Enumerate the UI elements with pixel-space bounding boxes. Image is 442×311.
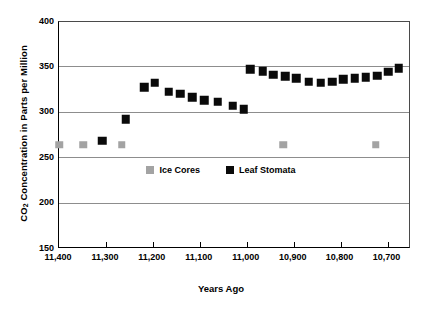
x-tick-label-10700: 10,700 bbox=[373, 252, 401, 262]
data-point-stomata bbox=[339, 75, 348, 84]
data-point-stomata bbox=[121, 115, 130, 124]
legend-label-ice: Ice Cores bbox=[159, 165, 200, 175]
data-point-stomata bbox=[213, 98, 222, 107]
data-point-ice bbox=[118, 141, 126, 149]
x-tick-mark-11200 bbox=[153, 242, 154, 247]
legend-item-ice: Ice Cores bbox=[146, 165, 200, 175]
data-point-stomata bbox=[328, 78, 337, 87]
data-point-stomata bbox=[200, 96, 209, 105]
data-point-stomata bbox=[362, 73, 371, 82]
gridline-200 bbox=[59, 203, 409, 204]
data-point-stomata bbox=[188, 93, 197, 102]
x-tick-label-11100: 11,100 bbox=[185, 252, 212, 262]
data-point-stomata bbox=[350, 74, 359, 83]
x-tick-mark-11100 bbox=[200, 242, 201, 247]
gridline-300 bbox=[59, 112, 409, 113]
y-tick-label-350: 350 bbox=[20, 62, 54, 71]
data-point-stomata bbox=[258, 67, 267, 76]
data-point-stomata bbox=[384, 68, 393, 77]
y-tick-label-400: 400 bbox=[20, 17, 54, 26]
y-tick-label-300: 300 bbox=[20, 107, 54, 116]
data-point-ice bbox=[80, 141, 88, 149]
x-tick-mark-10900 bbox=[294, 242, 295, 247]
legend-label-stomata: Leaf Stomata bbox=[239, 165, 296, 175]
plot-area bbox=[58, 21, 410, 248]
x-tick-mark-10700 bbox=[388, 242, 389, 247]
x-tick-mark-11000 bbox=[247, 242, 248, 247]
y-tick-label-200: 200 bbox=[20, 198, 54, 207]
x-tick-mark-10800 bbox=[341, 242, 342, 247]
data-point-stomata bbox=[246, 65, 255, 74]
x-axis-title: Years Ago bbox=[0, 283, 442, 294]
x-tick-label-11300: 11,300 bbox=[91, 252, 118, 262]
x-tick-label-11400: 11,400 bbox=[44, 252, 71, 262]
data-point-ice bbox=[280, 141, 288, 149]
data-point-stomata bbox=[292, 74, 301, 83]
chart-legend: Ice CoresLeaf Stomata bbox=[0, 165, 442, 175]
y-axis-tick-labels: 400350300250200150 bbox=[18, 0, 54, 311]
data-point-stomata bbox=[269, 70, 278, 79]
x-tick-label-11000: 11,000 bbox=[232, 252, 259, 262]
data-point-stomata bbox=[304, 78, 313, 87]
data-point-stomata bbox=[176, 89, 185, 98]
x-tick-label-10800: 10,800 bbox=[326, 252, 354, 262]
data-point-stomata bbox=[240, 105, 249, 114]
x-tick-mark-11300 bbox=[106, 242, 107, 247]
data-point-ice bbox=[372, 141, 380, 149]
data-point-stomata bbox=[395, 64, 404, 73]
x-tick-label-10900: 10,900 bbox=[279, 252, 307, 262]
data-point-stomata bbox=[373, 71, 382, 80]
co2-concentration-chart: CO2 Concentration in Parts per Million 4… bbox=[0, 0, 442, 311]
legend-swatch-stomata-icon bbox=[226, 166, 234, 174]
data-point-stomata bbox=[228, 101, 237, 110]
legend-item-stomata: Leaf Stomata bbox=[226, 165, 296, 175]
data-point-stomata bbox=[317, 79, 326, 88]
gridline-350 bbox=[59, 66, 409, 67]
data-point-stomata bbox=[140, 83, 149, 92]
data-point-stomata bbox=[150, 79, 159, 88]
legend-swatch-ice-icon bbox=[146, 166, 154, 174]
data-point-stomata bbox=[98, 137, 107, 146]
x-tick-label-11200: 11,200 bbox=[138, 252, 165, 262]
data-point-stomata bbox=[165, 88, 174, 97]
data-point-stomata bbox=[281, 72, 290, 81]
y-tick-label-250: 250 bbox=[20, 153, 54, 162]
data-point-ice bbox=[55, 141, 63, 149]
gridline-250 bbox=[59, 157, 409, 158]
